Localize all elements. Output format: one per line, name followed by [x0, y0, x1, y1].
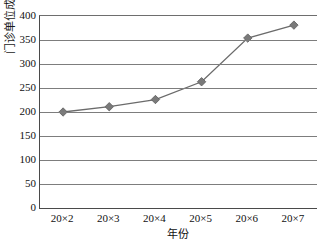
line-chart-figure: 门诊单位成本 050100150200250300350400 20×220×3… — [0, 0, 327, 248]
y-axis-tick-labels: 050100150200250300350400 — [8, 8, 36, 214]
x-axis-tick-label: 20×7 — [263, 210, 323, 226]
gridline — [40, 88, 317, 89]
data-point-marker — [290, 21, 298, 29]
x-axis-title: 年份 — [39, 227, 316, 242]
y-axis-tick-label: 50 — [8, 176, 36, 190]
gridline — [40, 136, 317, 137]
y-axis-tick-label: 150 — [8, 128, 36, 142]
x-axis-tick-labels: 20×220×320×420×520×620×7 — [39, 210, 316, 226]
gridline — [40, 64, 317, 65]
gridline — [40, 184, 317, 185]
plot-area — [39, 15, 317, 209]
gridline — [40, 160, 317, 161]
y-axis-tick-label: 400 — [8, 8, 36, 22]
y-axis-tick-label: 100 — [8, 152, 36, 166]
y-axis-tick-label: 250 — [8, 80, 36, 94]
data-point-marker — [105, 103, 113, 111]
series-line — [63, 25, 294, 112]
y-axis-tick-label: 300 — [8, 56, 36, 70]
gridline — [40, 40, 317, 41]
data-point-marker — [151, 95, 159, 103]
y-axis-tick-label: 350 — [8, 32, 36, 46]
gridline — [40, 112, 317, 113]
y-axis-tick-label: 200 — [8, 104, 36, 118]
